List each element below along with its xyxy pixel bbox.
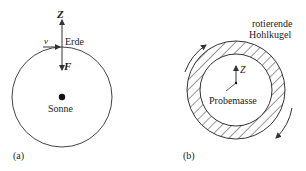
diagram-canvas: Z v Erde F Sonne (a) rotierende Hohlkuge… [0, 0, 306, 171]
mass-z-label: Z [240, 64, 246, 75]
test-mass-label: Probemasse [209, 95, 257, 106]
sun-dot [59, 94, 65, 100]
shell-label-line1: rotierende [252, 18, 293, 29]
panel-a: Z v Erde F Sonne (a) [12, 8, 112, 162]
earth-label: Erde [65, 36, 84, 47]
panel-a-tag: (a) [13, 150, 24, 162]
sun-label: Sonne [48, 103, 74, 114]
test-mass-dot [235, 82, 237, 84]
shell-label-line2: Hohlkugel [249, 29, 291, 40]
force-label: F [63, 60, 72, 72]
figure: Z v Erde F Sonne (a) rotierende Hohlkuge… [0, 0, 306, 171]
panel-b: rotierende Hohlkugel Z Probemasse (b) [180, 18, 295, 162]
z-axis-label: Z [56, 8, 64, 20]
panel-b-tag: (b) [183, 150, 195, 162]
velocity-label: v [44, 36, 48, 46]
